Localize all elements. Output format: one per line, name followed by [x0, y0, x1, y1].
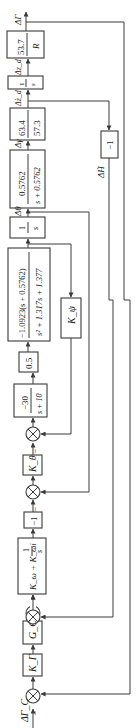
label-Kpsi: K_ψ	[66, 305, 77, 325]
scale-den: 57.3	[32, 120, 42, 136]
label-PI-frac-den: s	[35, 550, 44, 553]
plant-num: −1.0923(s + 0.5762)	[17, 268, 27, 338]
label-neg1b: −1	[105, 140, 115, 150]
label-neg1a: −1	[29, 516, 39, 526]
signal-gamma: Δγ	[13, 139, 23, 149]
plant-den: s² + 1.317s + 1.377	[34, 268, 44, 336]
actuator-den: s + 10	[35, 393, 44, 414]
block-diagram: − − − − ΔΓ_C K_Γ G_C K_ω + K_ωi 1 s −1 K…	[0, 0, 139, 728]
range-den: R	[31, 43, 41, 50]
signal-z: Δz_d	[14, 58, 23, 76]
actuator-num: −30	[20, 395, 30, 410]
svg-text:−: −	[30, 711, 40, 716]
sum-junction-4	[26, 427, 40, 441]
int1-den: s	[31, 227, 40, 230]
path-num: 0.5762	[17, 171, 27, 196]
int2-den: s	[29, 83, 37, 86]
sum-junction-3	[26, 485, 40, 499]
path-den: s + 0.5762	[32, 167, 42, 204]
svg-text:−: −	[30, 449, 40, 454]
label-GC: G_C	[27, 620, 38, 639]
signal-hdot: ΔḢ	[96, 166, 106, 179]
range-num: 53.7	[16, 39, 26, 55]
output-label: ΔΓ	[13, 14, 23, 26]
label-PI-frac-num: 1	[22, 548, 31, 552]
int1-num: 1	[18, 226, 27, 230]
svg-text:−: −	[30, 507, 40, 512]
label-Ktheta: K_θ	[27, 455, 38, 473]
label-KG: K_Γ	[27, 654, 38, 673]
label-gain05: 0.5	[24, 357, 34, 369]
int2-num: 1	[18, 82, 26, 86]
input-label: ΔΓ_C	[19, 698, 30, 723]
signal-zdot: Δż_d	[14, 89, 23, 107]
signal-theta: Δθ	[13, 206, 23, 217]
scale-num: 63.4	[17, 120, 27, 136]
